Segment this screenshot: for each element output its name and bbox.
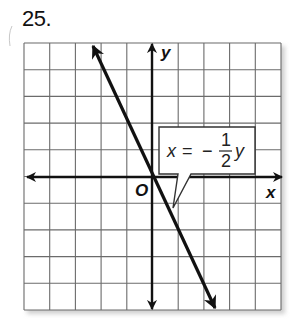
x-axis-label: x xyxy=(265,183,277,202)
equation-variable: y xyxy=(233,141,245,161)
equation-sign: − xyxy=(202,141,213,161)
coordinate-graph: x = − 1 2 y y x O xyxy=(0,0,299,334)
y-axis-label: y xyxy=(160,43,172,62)
equation-equals: = xyxy=(182,141,193,161)
fraction-numerator: 1 xyxy=(221,130,231,150)
fraction-denominator: 2 xyxy=(221,151,231,171)
equation-lhs: x xyxy=(166,141,177,161)
origin-label: O xyxy=(135,181,148,200)
